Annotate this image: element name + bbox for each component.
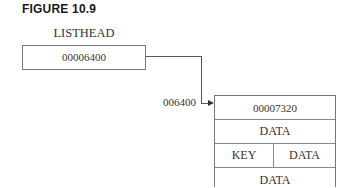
listhead-title: LISTHEAD [22,26,146,41]
data-field: DATA [289,148,320,163]
node-row-data: DATA [215,168,335,187]
data-field: DATA [259,173,290,188]
list-node: 00007320 DATA KEY DATA DATA [214,95,336,187]
node-row-forward-link: 00007320 [215,96,335,120]
data-cell: DATA [274,144,335,167]
node-row-key-data: KEY DATA [215,144,335,168]
node-row-data: DATA [215,120,335,144]
listhead-box: 00006400 [22,45,146,70]
data-field: DATA [259,124,290,139]
connector-line-horizontal [146,56,202,57]
listhead-value: 00006400 [23,46,145,69]
key-field: KEY [232,148,257,163]
node-address-label: 006400 [163,96,196,108]
connector-line-vertical [201,56,202,104]
figure-label: FIGURE 10.9 [22,2,96,16]
forward-link-value: 00007320 [253,102,297,114]
key-cell: KEY [215,144,274,167]
